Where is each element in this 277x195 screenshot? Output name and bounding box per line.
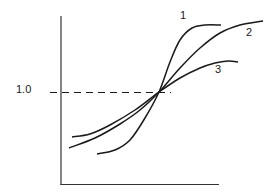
curve-2-label: 2 xyxy=(246,27,252,38)
curve-1-label: 1 xyxy=(180,10,186,21)
y-tick-label: 1.0 xyxy=(16,84,31,95)
curve-1 xyxy=(97,25,221,154)
sigmoid-chart xyxy=(0,0,277,195)
curve-2 xyxy=(69,21,263,148)
curve-3-label: 3 xyxy=(215,64,221,75)
